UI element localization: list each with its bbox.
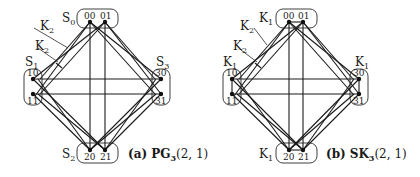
group-label-s2: S2 <box>62 147 75 163</box>
edge-11-21 <box>38 94 105 150</box>
node-label-11: 11 <box>226 96 237 106</box>
node-label-00: 00 <box>84 11 96 21</box>
edge-31-21 <box>105 94 161 150</box>
edge-label-k2-lower: K2 <box>35 39 49 55</box>
group-label-s0: S0 <box>62 11 75 27</box>
edge-30-20 <box>289 79 359 150</box>
edge-10-20 <box>237 79 289 150</box>
node-label-21: 21 <box>298 152 309 162</box>
diagram-canvas: 00 01 10 11 20 21 30 31 S0 S1 S2 S3 K2 K… <box>0 0 420 177</box>
group-label-s1: S1 <box>25 55 38 71</box>
edge-label-k2-upper: K2 <box>40 19 54 35</box>
edge-00-30 <box>289 22 359 79</box>
edge-31-20 <box>90 94 156 150</box>
edge-10-20 <box>38 79 90 150</box>
group-label-left: K1 <box>223 55 237 71</box>
caption-a: (a)PG3(2, 1) <box>128 147 208 163</box>
group-label-bottom: K1 <box>259 147 273 163</box>
node-label-31: 31 <box>155 96 166 106</box>
node-label-20: 20 <box>283 152 295 162</box>
edge-11-20 <box>232 94 289 150</box>
node-label-31: 31 <box>353 96 364 106</box>
panel-b: 00 01 10 11 20 21 30 31 K1 K1 K1 K1 K2 K… <box>223 9 407 163</box>
node-label-30: 30 <box>353 68 365 78</box>
group-label-s3: S3 <box>156 55 169 71</box>
edge-label-k2-lower: K2 <box>233 39 247 55</box>
edge-30-20 <box>90 79 161 150</box>
edge-31-20 <box>289 94 354 150</box>
edge-31-21 <box>303 94 359 150</box>
edge-01-30 <box>303 22 353 79</box>
k2-leader-upper <box>254 28 267 45</box>
node-label-01: 01 <box>100 11 111 21</box>
node-label-21: 21 <box>100 152 111 162</box>
caption-b: (b)SK3(2, 1) <box>326 147 407 163</box>
panel-a: 00 01 10 11 20 21 30 31 S0 S1 S2 S3 K2 K… <box>24 9 208 163</box>
edge-30-21 <box>105 79 156 150</box>
edge-30-21 <box>303 79 354 150</box>
edge-10-21 <box>33 79 105 150</box>
edge-00-31 <box>90 22 155 94</box>
edge-10-21 <box>232 79 303 150</box>
edge-00-30 <box>90 22 161 79</box>
node-label-01: 01 <box>298 11 309 21</box>
group-label-top: K1 <box>259 11 273 27</box>
edge-01-30 <box>105 22 155 79</box>
group-label-right: K1 <box>355 55 369 71</box>
edge-11-21 <box>237 94 303 150</box>
node-label-20: 20 <box>84 152 96 162</box>
edge-00-31 <box>289 22 353 94</box>
edge-00-11 <box>234 22 289 96</box>
edge-label-k2-upper: K2 <box>240 19 254 35</box>
node-label-11: 11 <box>27 96 38 106</box>
node-label-00: 00 <box>283 11 295 21</box>
edge-11-20 <box>33 94 90 150</box>
